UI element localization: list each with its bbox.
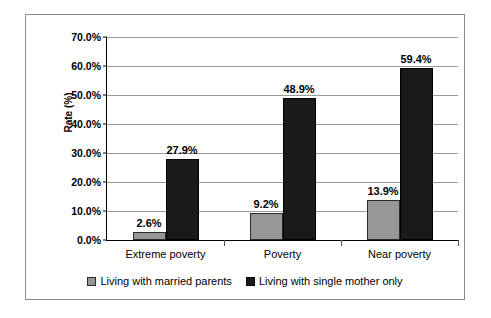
chart-legend: Living with married parentsLiving with s… [26, 275, 464, 287]
x-axis-tick [458, 240, 459, 246]
y-tick-label: 0.0% [77, 234, 101, 246]
legend-item-label: Living with married parents [100, 275, 231, 287]
y-tick-label: 30.0% [71, 147, 101, 159]
bar[interactable] [283, 98, 316, 240]
plot-area: 0.0%10.0%20.0%30.0%40.0%50.0%60.0%70.0% … [106, 37, 458, 241]
bar-group: 9.2%48.9% [224, 37, 341, 240]
y-tick-label: 70.0% [71, 31, 101, 43]
legend-item[interactable]: Living with married parents [87, 275, 231, 287]
bar[interactable] [250, 213, 283, 240]
x-axis-label: Near poverty [368, 248, 431, 260]
bar-group: 2.6%27.9% [107, 37, 224, 240]
bar[interactable] [367, 200, 400, 240]
x-axis-tick [341, 240, 342, 246]
legend-swatch-married-parents [87, 277, 96, 286]
bar[interactable] [166, 159, 199, 240]
x-axis-label: Extreme poverty [125, 248, 205, 260]
y-tick-label: 50.0% [71, 89, 101, 101]
bar[interactable] [400, 68, 433, 240]
x-axis-tick [224, 240, 225, 246]
bars-layer: 2.6%27.9%9.2%48.9%13.9%59.4% [107, 37, 458, 240]
y-tick-label: 60.0% [71, 60, 101, 72]
legend-item-label: Living with single mother only [259, 275, 403, 287]
bar-value-label: 59.4% [394, 53, 439, 65]
bar-value-label: 48.9% [277, 83, 322, 95]
bar-group: 13.9%59.4% [341, 37, 458, 240]
y-tick-label: 10.0% [71, 205, 101, 217]
y-tick-label: 20.0% [71, 176, 101, 188]
legend-item[interactable]: Living with single mother only [246, 275, 403, 287]
bar[interactable] [133, 232, 166, 240]
bar-value-label: 27.9% [160, 144, 205, 156]
legend-swatch-single-mother [246, 277, 255, 286]
x-axis-label: Poverty [264, 248, 301, 260]
chart-frame: Rate (%) 0.0%10.0%20.0%30.0%40.0%50.0%60… [25, 14, 465, 300]
y-tick-label: 40.0% [71, 118, 101, 130]
